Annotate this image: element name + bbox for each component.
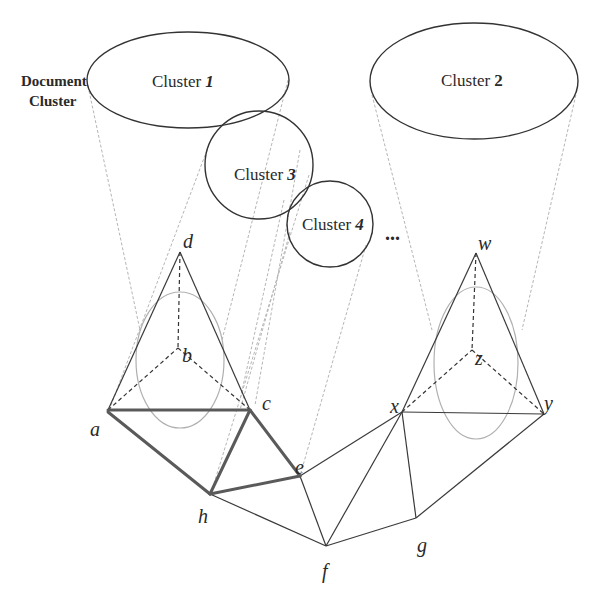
node-label-z: z <box>474 347 483 369</box>
inner-ellipse-left <box>136 292 224 428</box>
node-label-h: h <box>198 505 208 527</box>
dashed-edges <box>108 252 544 414</box>
more-clusters-ellipsis: ... <box>385 222 400 244</box>
document-cluster-label-line1: Document <box>21 73 87 89</box>
node-label-w: w <box>478 232 492 254</box>
node-label-d: d <box>183 230 194 252</box>
node-label-x: x <box>389 395 399 417</box>
document-cluster-label-line2: Cluster <box>29 93 77 109</box>
node-label-a: a <box>90 418 100 440</box>
cluster-1-label: Cluster 1 <box>152 72 214 91</box>
cluster-2-label: Cluster 2 <box>441 71 503 90</box>
node-label-c: c <box>262 392 271 414</box>
cluster-3-label: Cluster 3 <box>234 165 296 184</box>
node-label-f: f <box>322 560 330 583</box>
solid-edges <box>108 252 544 546</box>
bold-edges <box>108 410 300 494</box>
node-label-y: y <box>542 392 553 415</box>
cluster-4-label: Cluster 4 <box>302 215 364 234</box>
node-label-g: g <box>417 534 427 557</box>
node-label-e: e <box>295 456 304 478</box>
node-label-b: b <box>182 344 192 366</box>
projection-lines <box>88 80 577 490</box>
cluster-graph-diagram: Document Cluster Cluster 1 Cluster 2 Clu… <box>0 0 589 613</box>
